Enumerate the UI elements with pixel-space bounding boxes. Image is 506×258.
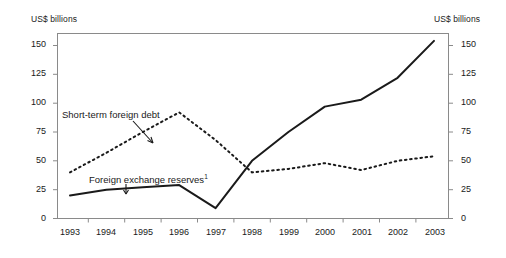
- line-chart: US$ billions US$ billions 150 125 100 75…: [0, 0, 506, 258]
- x-axis-ticks: [88, 219, 416, 223]
- series-foreign-exchange-reserves: [70, 41, 434, 208]
- plot-frame: [58, 34, 449, 219]
- annotation-leader-lines: [124, 121, 154, 194]
- plot-svg: [0, 0, 506, 258]
- left-axis-ticks: [53, 46, 58, 219]
- right-axis-ticks: [449, 46, 454, 219]
- series-short-term-foreign-debt: [70, 112, 434, 172]
